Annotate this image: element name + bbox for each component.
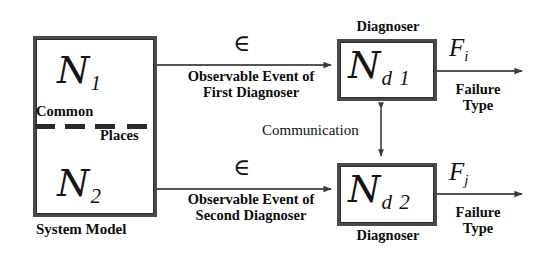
element-of-icon-second: ∈ bbox=[233, 156, 250, 179]
observable-event-second-line2: Second Diagnoser bbox=[165, 208, 337, 224]
diagram-canvas: N1 N2 Common Places System Model ∈ ∈ Obs… bbox=[0, 0, 538, 266]
diagnoser-2-subscript: d 2 bbox=[381, 190, 410, 214]
failure-type-j-line2: Type bbox=[443, 221, 513, 237]
diagnoser-2-letter: N bbox=[348, 168, 380, 211]
failure-symbol-i: Fi bbox=[449, 35, 468, 64]
net-n1-letter: N bbox=[57, 49, 89, 92]
diagnoser-2-title: Diagnoser bbox=[338, 228, 438, 244]
failure-symbol-i-letter: F bbox=[449, 34, 464, 61]
element-of-icon-first: ∈ bbox=[233, 32, 250, 55]
system-model-caption: System Model bbox=[36, 222, 126, 238]
failure-symbol-j: Fj bbox=[449, 159, 468, 188]
common-places-label-places: Places bbox=[100, 128, 139, 144]
observable-event-second-line1: Observable Event of bbox=[165, 192, 337, 208]
diagnoser-1-subscript: d 1 bbox=[381, 66, 410, 90]
failure-type-i-label: Failure Type bbox=[443, 82, 513, 113]
net-n1-subscript: 1 bbox=[90, 71, 102, 95]
observable-event-first-line1: Observable Event of bbox=[165, 69, 337, 85]
diagnoser-1-title: Diagnoser bbox=[338, 19, 438, 35]
net-n2-symbol: N2 bbox=[57, 165, 102, 209]
common-places-label-common: Common bbox=[36, 104, 93, 120]
failure-type-j-line1: Failure bbox=[443, 205, 513, 221]
failure-type-i-line2: Type bbox=[443, 98, 513, 114]
diagnoser-2-symbol: Nd 2 bbox=[348, 171, 411, 215]
diagnoser-1-letter: N bbox=[348, 44, 380, 87]
failure-type-j-label: Failure Type bbox=[443, 205, 513, 236]
observable-event-second-diagnoser-label: Observable Event of Second Diagnoser bbox=[165, 192, 337, 223]
net-n2-subscript: 2 bbox=[90, 184, 102, 208]
diagnoser-1-symbol: Nd 1 bbox=[348, 47, 411, 91]
observable-event-first-line2: First Diagnoser bbox=[165, 85, 337, 101]
failure-symbol-j-subscript: j bbox=[464, 172, 468, 188]
net-n1-symbol: N1 bbox=[57, 52, 102, 96]
net-n2-letter: N bbox=[57, 162, 89, 205]
communication-label: Communication bbox=[262, 122, 359, 139]
failure-symbol-i-subscript: i bbox=[464, 48, 468, 64]
failure-symbol-j-letter: F bbox=[449, 158, 464, 185]
failure-type-i-line1: Failure bbox=[443, 82, 513, 98]
observable-event-first-diagnoser-label: Observable Event of First Diagnoser bbox=[165, 69, 337, 100]
